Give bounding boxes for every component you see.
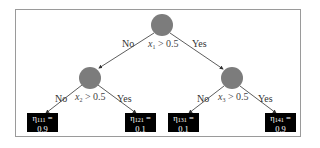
leaf-131: η131 = 0.1 <box>168 113 199 132</box>
root-condition: x1 > 0.5 <box>148 39 179 52</box>
leaf-141-label: η141 = <box>265 114 296 125</box>
right-condition: x3 > 0.5 <box>218 92 249 105</box>
root-condition-sub: 1 <box>152 44 155 50</box>
right-condition-sub: 3 <box>222 97 225 103</box>
left-yes-label: Yes <box>117 94 132 104</box>
leaf-131-label: η131 = <box>168 114 199 125</box>
right-condition-op: > 0.5 <box>228 91 249 102</box>
leaf-121-value: 0.1 <box>125 125 156 134</box>
leaf-111-label: η111 = <box>27 114 58 125</box>
left-condition-sub: 2 <box>79 97 82 103</box>
equals-sign: = <box>187 113 194 123</box>
left-no-label: No <box>55 94 67 104</box>
right-no-label: No <box>197 94 209 104</box>
leaf-141-value: 0.9 <box>265 125 296 134</box>
left-node <box>79 67 101 89</box>
equals-sign: = <box>284 113 291 123</box>
right-node <box>221 67 243 89</box>
leaf-subscript: 121 <box>135 117 144 123</box>
leaf-subscript: 131 <box>178 117 187 123</box>
leaf-111: η111 = 0.9 <box>27 113 58 132</box>
leaf-subscript: 111 <box>37 117 46 123</box>
leaf-121-label: η121 = <box>125 114 156 125</box>
root-condition-op: > 0.5 <box>158 38 179 49</box>
root-node <box>151 14 173 36</box>
leaf-131-value: 0.1 <box>168 125 199 134</box>
left-condition: x2 > 0.5 <box>75 92 106 105</box>
left-condition-op: > 0.5 <box>85 91 106 102</box>
leaf-111-value: 0.9 <box>27 125 58 134</box>
leaf-subscript: 141 <box>275 117 284 123</box>
equals-sign: = <box>46 113 53 123</box>
right-yes-label: Yes <box>258 94 273 104</box>
equals-sign: = <box>144 113 151 123</box>
leaf-141: η141 = 0.9 <box>265 113 296 132</box>
leaf-121: η121 = 0.1 <box>125 113 156 132</box>
root-yes-label: Yes <box>192 39 207 49</box>
root-no-label: No <box>122 39 134 49</box>
